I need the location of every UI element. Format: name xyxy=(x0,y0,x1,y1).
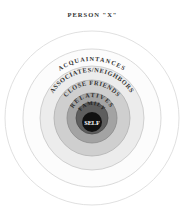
label-self: SELF xyxy=(84,119,100,126)
social-circles-diagram: PERSON "X" ACQUAINTANCES ASSOCIATES/NEIG… xyxy=(0,0,185,215)
concentric-circles: ACQUAINTANCES ASSOCIATES/NEIGHBORS CLOSE… xyxy=(0,0,185,215)
